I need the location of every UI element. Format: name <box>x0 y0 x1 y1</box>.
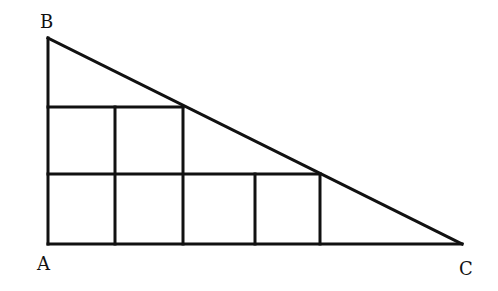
vertex-label-c: C <box>459 258 473 279</box>
triangle-diagram: B A C <box>0 0 498 291</box>
vertex-label-b: B <box>40 11 53 32</box>
vertex-label-a: A <box>36 253 51 274</box>
